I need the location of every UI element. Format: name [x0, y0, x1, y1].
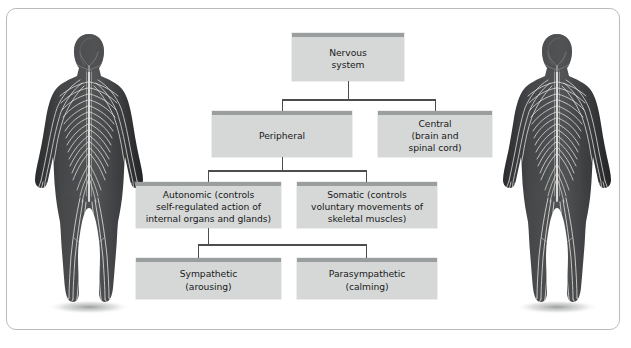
human-body-left-illustration — [30, 26, 148, 316]
node-sympathetic[interactable]: Sympathetic (arousing) — [136, 258, 281, 299]
node-central[interactable]: Central (brain and spinal cord) — [378, 111, 492, 157]
node-somatic[interactable]: Somatic (controls voluntary movements of… — [297, 182, 437, 228]
node-central-label: Central (brain and spinal cord) — [404, 118, 465, 155]
human-body-right-illustration — [498, 26, 616, 316]
nervous-system-figure: Nervous system Peripheral Central (brain… — [0, 0, 631, 348]
node-autonomic[interactable]: Autonomic (controls self-regulated actio… — [136, 182, 281, 228]
node-nervous-system-label: Nervous system — [325, 47, 371, 71]
node-autonomic-label: Autonomic (controls self-regulated actio… — [142, 189, 275, 226]
node-peripheral-label: Peripheral — [255, 130, 309, 142]
node-peripheral[interactable]: Peripheral — [212, 111, 352, 157]
node-nervous-system[interactable]: Nervous system — [292, 33, 404, 81]
node-parasympathetic-label: Parasympathetic (calming) — [325, 268, 409, 292]
node-somatic-label: Somatic (controls voluntary movements of… — [307, 189, 427, 226]
node-parasympathetic[interactable]: Parasympathetic (calming) — [297, 258, 437, 299]
node-sympathetic-label: Sympathetic (arousing) — [176, 268, 241, 292]
